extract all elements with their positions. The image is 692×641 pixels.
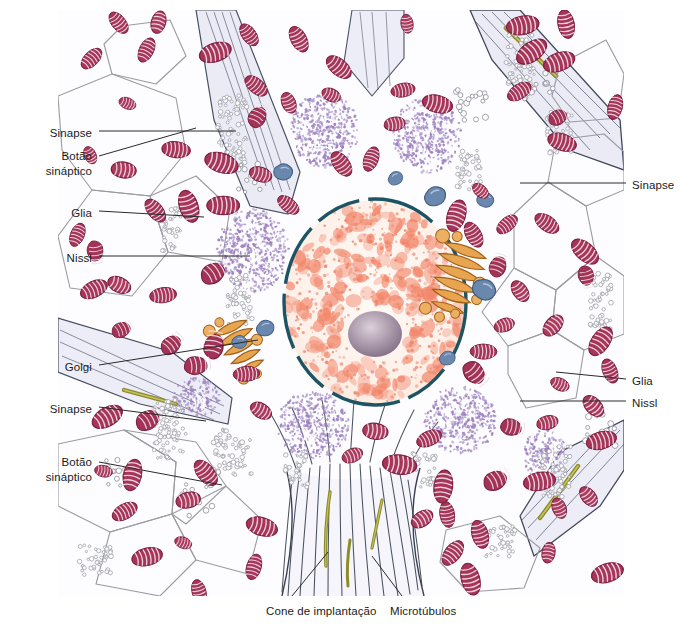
nucleolus [348, 311, 402, 357]
label-microtubulos: Microtúbulos [390, 604, 456, 619]
label-nissl-right: Nissl [632, 396, 657, 411]
label-glia-left: Glia [71, 206, 92, 221]
label-golgi-left: Golgi [65, 360, 92, 375]
label-botao-sinaptico-top: Botãosináptico [46, 149, 92, 179]
label-sinapse-right: Sinapse [632, 178, 674, 193]
figure-canvas: SinapseBotãosinápticoGliaNisslGolgiSinap… [0, 0, 692, 641]
label-cone-de-implantacao: Cone de implantação [266, 604, 377, 619]
label-sinapse-left-low: Sinapse [50, 402, 92, 417]
label-botao-sinaptico-low: Botãosináptico [46, 455, 92, 485]
label-sinapse-top: Sinapse [50, 126, 92, 141]
mitochondrion [470, 344, 497, 359]
label-nissl-left: Nissl [67, 251, 92, 266]
label-glia-right: Glia [632, 374, 653, 389]
mitochondrion [207, 196, 240, 214]
neuron-illustration [0, 0, 692, 641]
